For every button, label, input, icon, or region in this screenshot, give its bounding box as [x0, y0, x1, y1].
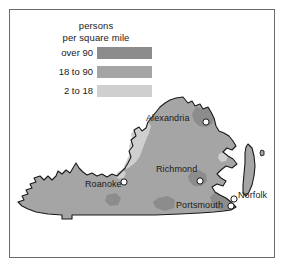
legend-title-line2: per square mile — [40, 32, 152, 44]
legend-label-mid: 18 to 90 — [59, 66, 97, 77]
legend-row-low: 2 to 18 — [40, 84, 152, 97]
legend-title: persons per square mile — [40, 20, 152, 43]
city-marker-roanoke[interactable] — [121, 179, 127, 185]
city-label-alexandria: Alexandria — [146, 113, 190, 123]
city-label-richmond: Richmond — [156, 164, 197, 174]
legend-label-high: over 90 — [61, 47, 97, 58]
map-figure: persons per square mile over 90 18 to 90… — [0, 0, 287, 274]
eastern-shore-island — [260, 150, 264, 156]
legend-label-low: 2 to 18 — [64, 85, 97, 96]
legend-swatch-low — [97, 85, 152, 97]
legend-row-mid: 18 to 90 — [40, 65, 152, 78]
city-marker-norfolk[interactable] — [231, 196, 237, 202]
city-label-portsmouth: Portsmouth — [176, 200, 223, 210]
legend-swatch-high — [97, 47, 152, 59]
city-label-norfolk: Norfolk — [238, 190, 267, 200]
city-label-roanoke: Roanoke — [85, 179, 122, 189]
city-marker-alexandria[interactable] — [203, 119, 209, 125]
legend: persons per square mile over 90 18 to 90… — [40, 20, 152, 103]
legend-row-high: over 90 — [40, 46, 152, 59]
legend-rows: over 90 18 to 90 2 to 18 — [40, 46, 152, 97]
eastern-shore-peninsula — [243, 144, 255, 196]
legend-title-line1: persons — [40, 20, 152, 32]
legend-swatch-mid — [97, 66, 152, 78]
city-marker-richmond[interactable] — [197, 178, 203, 184]
city-marker-portsmouth[interactable] — [228, 203, 234, 209]
